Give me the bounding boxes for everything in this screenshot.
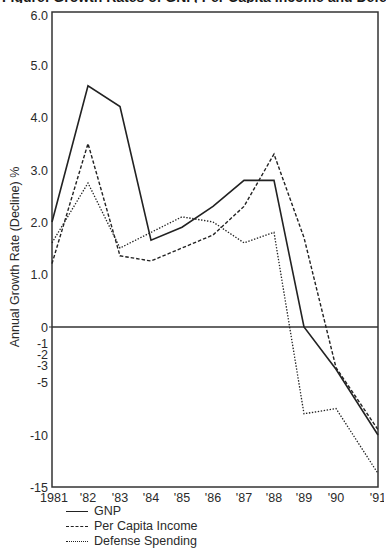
y-tick-label: -10 bbox=[30, 429, 48, 443]
legend: GNP Per Capita Income Defense Spending bbox=[66, 504, 198, 549]
legend-label: GNP bbox=[94, 504, 121, 519]
y-axis-ticks: 6.05.04.03.02.01.00-1-2-3-5-10-15 bbox=[30, 9, 52, 495]
y-tick-label: 5.0 bbox=[31, 59, 48, 73]
y-tick-label: 2.0 bbox=[31, 216, 48, 230]
data-series bbox=[52, 86, 378, 474]
x-tick-label: '86 bbox=[205, 491, 221, 505]
y-tick-label: 1.0 bbox=[31, 268, 48, 282]
x-tick-label: '87 bbox=[236, 491, 252, 505]
x-tick-label: '83 bbox=[112, 491, 128, 505]
x-tick-label: '84 bbox=[143, 491, 159, 505]
legend-label: Per Capita Income bbox=[94, 519, 198, 534]
x-tick-label: '89 bbox=[296, 491, 312, 505]
y-tick-label: 0 bbox=[41, 321, 48, 335]
series-gnp bbox=[52, 86, 378, 435]
plot-frame bbox=[52, 12, 378, 487]
series-defense-spending bbox=[52, 183, 378, 474]
x-axis-ticks: 1981'82'83'84'85'86'87'88'89'90'91 bbox=[40, 491, 384, 505]
x-tick-label: '88 bbox=[266, 491, 282, 505]
legend-item-gnp: GNP bbox=[66, 504, 198, 519]
y-tick-label: -3 bbox=[37, 359, 48, 373]
series-per-capita-income bbox=[52, 144, 378, 430]
legend-item-defense-spending: Defense Spending bbox=[66, 534, 198, 549]
y-tick-label: -5 bbox=[37, 376, 48, 390]
x-tick-label: '85 bbox=[174, 491, 190, 505]
x-tick-label: '90 bbox=[328, 491, 344, 505]
x-tick-label: '91 bbox=[370, 491, 384, 505]
y-tick-label: 4.0 bbox=[31, 111, 48, 125]
legend-item-per-capita-income: Per Capita Income bbox=[66, 519, 198, 534]
y-tick-label: 6.0 bbox=[31, 9, 48, 23]
dashed-line-icon bbox=[66, 526, 88, 527]
solid-line-icon bbox=[66, 511, 88, 512]
y-tick-label: 3.0 bbox=[31, 164, 48, 178]
plot-border bbox=[52, 12, 378, 487]
x-tick-label: '82 bbox=[80, 491, 96, 505]
dotted-line-icon bbox=[66, 541, 88, 542]
x-tick-label: 1981 bbox=[40, 491, 68, 505]
legend-label: Defense Spending bbox=[94, 534, 197, 549]
